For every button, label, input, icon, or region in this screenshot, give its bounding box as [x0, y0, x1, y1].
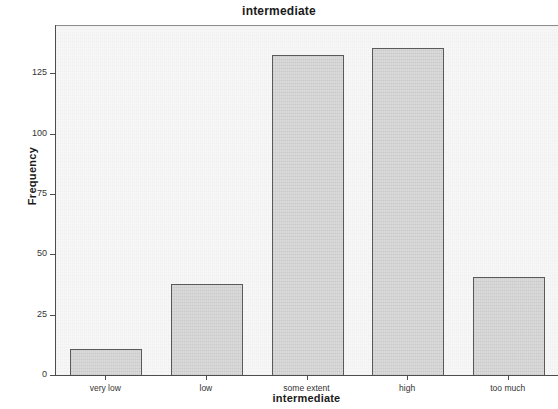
x-axis-label: intermediate	[55, 392, 558, 404]
bar-chart: intermediate 0255075100125 Frequency ver…	[0, 0, 558, 409]
y-tick-label: 75	[37, 188, 47, 198]
x-tick-mark	[105, 375, 106, 380]
bar	[473, 277, 545, 376]
y-tick: 50	[0, 254, 55, 255]
x-tick-mark	[508, 375, 509, 380]
chart-title: intermediate	[0, 4, 558, 18]
x-tick-mark	[407, 375, 408, 380]
y-tick-mark	[50, 134, 55, 135]
x-tick-mark	[307, 375, 308, 380]
y-axis-label: Frequency	[26, 116, 38, 236]
y-tick-mark	[50, 194, 55, 195]
bar	[70, 349, 142, 376]
bar	[171, 284, 243, 376]
y-tick-mark	[50, 73, 55, 74]
plot-area	[55, 25, 558, 375]
y-tick-label: 50	[37, 248, 47, 258]
y-tick: 125	[0, 73, 55, 74]
x-tick-mark	[206, 375, 207, 380]
y-tick: 25	[0, 315, 55, 316]
y-tick: 0	[0, 375, 55, 376]
y-tick-mark	[50, 375, 55, 376]
y-tick-label: 125	[32, 67, 47, 77]
y-tick-label: 25	[37, 309, 47, 319]
y-axis-line	[55, 25, 56, 376]
bar	[272, 55, 344, 376]
y-tick-mark	[50, 315, 55, 316]
y-tick-label: 0	[42, 369, 47, 379]
bar	[372, 48, 444, 376]
y-tick-mark	[50, 254, 55, 255]
